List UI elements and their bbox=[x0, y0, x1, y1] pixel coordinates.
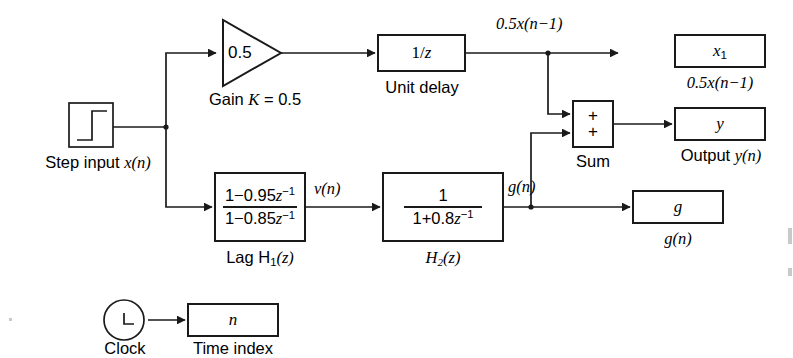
lag-filter-caption: Lag H1(z) bbox=[205, 248, 315, 268]
scan-speck bbox=[9, 318, 12, 321]
lag-filter-block[interactable]: 1−0.95z−1 1−0.85z−1 bbox=[214, 172, 306, 242]
gain-block[interactable]: 0.5 bbox=[228, 41, 274, 65]
sink-x1-caption: 0.5x(n−1) bbox=[662, 73, 778, 93]
h2-filter-caption: H2(z) bbox=[398, 248, 488, 268]
gain-value: 0.5 bbox=[228, 43, 252, 63]
sink-y-block[interactable]: y bbox=[674, 107, 766, 141]
block-diagram-canvas: 0.5 Gain K = 0.5 1/z Unit delay 1−0.95z−… bbox=[0, 0, 793, 358]
lag-filter-transfer-function: 1−0.95z−1 1−0.85z−1 bbox=[223, 186, 297, 229]
scan-artifact bbox=[788, 268, 792, 276]
unit-delay-block[interactable]: 1/z bbox=[377, 34, 466, 72]
step-input-caption: Step input x(n) bbox=[18, 153, 178, 173]
gain-caption: Gain K = 0.5 bbox=[190, 90, 320, 110]
scan-artifact bbox=[788, 228, 792, 244]
sum-block[interactable]: + + bbox=[572, 100, 614, 148]
sink-y-label: y bbox=[716, 114, 724, 134]
sink-y-caption: Output y(n) bbox=[656, 146, 786, 166]
clock-caption: Clock bbox=[94, 339, 156, 358]
signal-label-delay-out: 0.5x(n−1) bbox=[496, 14, 563, 34]
sink-g-label: g bbox=[674, 197, 683, 217]
sink-x1-block[interactable]: x1 bbox=[674, 34, 766, 68]
sink-time-index-block[interactable]: n bbox=[187, 303, 279, 337]
clock-hands bbox=[124, 313, 134, 324]
h2-filter-transfer-function: 1 1+0.8z−1 bbox=[404, 186, 482, 228]
sink-time-index-label: n bbox=[229, 310, 238, 330]
step-waveform bbox=[77, 111, 107, 140]
sum-caption: Sum bbox=[563, 152, 623, 171]
sink-time-index-caption: Time index bbox=[177, 339, 289, 358]
signal-label-h2-out: g(n) bbox=[508, 177, 536, 197]
wire-delay-to-sum-input1 bbox=[548, 53, 570, 114]
sink-x1-label: x1 bbox=[713, 41, 727, 61]
gain-caption-k: K bbox=[248, 90, 259, 109]
sink-g-caption: g(n) bbox=[634, 229, 722, 249]
signal-label-lag-out: v(n) bbox=[314, 179, 341, 199]
sum-sign-bottom: + bbox=[588, 124, 598, 140]
unit-delay-label: 1/z bbox=[412, 43, 432, 63]
sink-g-block[interactable]: g bbox=[632, 190, 724, 224]
h2-filter-block[interactable]: 1 1+0.8z−1 bbox=[382, 172, 504, 242]
unit-delay-caption: Unit delay bbox=[362, 78, 482, 97]
